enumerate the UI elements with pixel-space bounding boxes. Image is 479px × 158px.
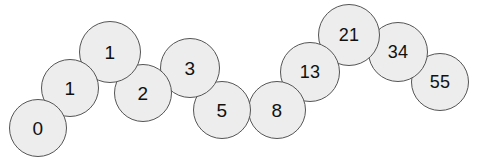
fibonacci-circles-figure: 011235813213455 (0, 0, 479, 158)
fibonacci-circle-label: 5 (217, 101, 228, 120)
fibonacci-circle-label: 21 (339, 26, 359, 44)
fibonacci-circle-label: 3 (185, 59, 196, 78)
fibonacci-circle: 8 (248, 81, 306, 139)
fibonacci-circle-label: 1 (105, 43, 116, 62)
fibonacci-circle: 0 (9, 99, 67, 157)
fibonacci-circle-label: 1 (65, 79, 76, 98)
fibonacci-circle-label: 8 (272, 101, 283, 120)
fibonacci-circle-label: 0 (33, 119, 44, 138)
fibonacci-circle-label: 13 (300, 63, 320, 81)
fibonacci-circle-label: 55 (430, 73, 450, 91)
fibonacci-circle-label: 2 (138, 84, 149, 103)
fibonacci-circle-label: 34 (388, 43, 408, 61)
